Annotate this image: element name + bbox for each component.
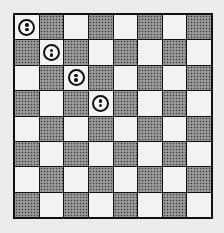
board-square-r3-c0[interactable] (15, 91, 39, 115)
board-square-r0-c2[interactable] (64, 15, 88, 39)
board-square-r3-c4[interactable] (114, 91, 138, 115)
board-square-r4-c4[interactable] (114, 117, 138, 141)
board-square-r3-c5[interactable] (138, 91, 162, 115)
board-square-r3-c7[interactable] (187, 91, 211, 115)
board-square-r1-c6[interactable] (163, 40, 187, 64)
board-square-r0-c0[interactable] (15, 15, 39, 39)
board-square-r3-c3[interactable] (89, 91, 113, 115)
piece-dot-bottom (99, 104, 103, 108)
piece-dot-top (74, 74, 78, 78)
game-piece-two-dot-icon[interactable] (92, 95, 109, 112)
board-square-r6-c2[interactable] (64, 167, 88, 191)
board-square-r4-c2[interactable] (64, 117, 88, 141)
piece-dot-top (25, 23, 29, 27)
board-square-r0-c3[interactable] (89, 15, 113, 39)
board-square-r3-c1[interactable] (40, 91, 64, 115)
board-square-r1-c2[interactable] (64, 40, 88, 64)
board-square-r1-c0[interactable] (15, 40, 39, 64)
board-square-r5-c0[interactable] (15, 142, 39, 166)
board-square-r4-c1[interactable] (40, 117, 64, 141)
board-square-r6-c7[interactable] (187, 167, 211, 191)
piece-dot-top (99, 99, 103, 103)
board-square-r6-c6[interactable] (163, 167, 187, 191)
board-square-r0-c7[interactable] (187, 15, 211, 39)
board-square-r5-c5[interactable] (138, 142, 162, 166)
game-piece-two-dot-icon[interactable] (18, 19, 35, 36)
board-square-r7-c5[interactable] (138, 193, 162, 217)
board-square-r6-c3[interactable] (89, 167, 113, 191)
board-square-r2-c3[interactable] (89, 66, 113, 90)
board-square-r7-c3[interactable] (89, 193, 113, 217)
board-square-r1-c3[interactable] (89, 40, 113, 64)
board-square-r0-c6[interactable] (163, 15, 187, 39)
board-square-r5-c3[interactable] (89, 142, 113, 166)
board-square-r7-c7[interactable] (187, 193, 211, 217)
board-square-r0-c1[interactable] (40, 15, 64, 39)
board-square-r1-c4[interactable] (114, 40, 138, 64)
board-square-r6-c5[interactable] (138, 167, 162, 191)
board-square-r3-c2[interactable] (64, 91, 88, 115)
board-square-r4-c0[interactable] (15, 117, 39, 141)
board-square-r2-c5[interactable] (138, 66, 162, 90)
game-piece-two-dot-icon[interactable] (68, 69, 85, 86)
piece-dot-bottom (25, 28, 29, 32)
board-square-r1-c1[interactable] (40, 40, 64, 64)
board-square-r5-c6[interactable] (163, 142, 187, 166)
board-square-r4-c5[interactable] (138, 117, 162, 141)
board-square-r6-c4[interactable] (114, 167, 138, 191)
board-square-r4-c6[interactable] (163, 117, 187, 141)
piece-dot-bottom (50, 53, 54, 57)
board-square-r7-c6[interactable] (163, 193, 187, 217)
piece-dot-bottom (74, 78, 78, 82)
board-square-r0-c4[interactable] (114, 15, 138, 39)
board-square-r4-c3[interactable] (89, 117, 113, 141)
board-square-r7-c0[interactable] (15, 193, 39, 217)
checkerboard (13, 13, 213, 219)
board-square-r2-c2[interactable] (64, 66, 88, 90)
board-square-r5-c7[interactable] (187, 142, 211, 166)
board-square-r1-c7[interactable] (187, 40, 211, 64)
game-piece-two-dot-icon[interactable] (43, 44, 60, 61)
board-square-r6-c1[interactable] (40, 167, 64, 191)
board-square-r5-c1[interactable] (40, 142, 64, 166)
board-square-r5-c4[interactable] (114, 142, 138, 166)
board-square-r7-c2[interactable] (64, 193, 88, 217)
board-square-r6-c0[interactable] (15, 167, 39, 191)
board-square-r2-c0[interactable] (15, 66, 39, 90)
board-square-r2-c6[interactable] (163, 66, 187, 90)
board-square-r7-c1[interactable] (40, 193, 64, 217)
board-square-r7-c4[interactable] (114, 193, 138, 217)
board-square-r3-c6[interactable] (163, 91, 187, 115)
board-square-r4-c7[interactable] (187, 117, 211, 141)
board-square-r5-c2[interactable] (64, 142, 88, 166)
board-square-r2-c7[interactable] (187, 66, 211, 90)
board-square-r1-c5[interactable] (138, 40, 162, 64)
board-square-r2-c4[interactable] (114, 66, 138, 90)
board-square-r0-c5[interactable] (138, 15, 162, 39)
board-square-r2-c1[interactable] (40, 66, 64, 90)
piece-dot-top (50, 49, 54, 53)
